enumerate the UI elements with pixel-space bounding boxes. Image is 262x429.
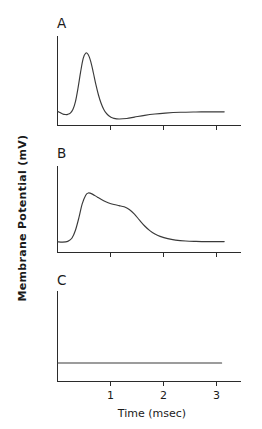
panel-c: C 1 2 3 xyxy=(57,272,241,402)
x-tick-labels: 1 2 3 xyxy=(107,389,220,402)
panel-b: B xyxy=(57,145,241,257)
membrane-potential-figure: A B C xyxy=(0,0,262,429)
panel-a-label: A xyxy=(57,15,67,31)
panel-c-ticks xyxy=(111,382,217,387)
x-axis-title: Time (msec) xyxy=(117,407,186,420)
y-axis-title: Membrane Potential (mV) xyxy=(16,135,29,302)
x-tick-label-1: 1 xyxy=(107,389,114,402)
panel-b-trace xyxy=(58,193,225,242)
panel-a: A xyxy=(57,15,241,130)
figure-container: A B C xyxy=(0,0,262,429)
panel-b-ticks xyxy=(111,253,217,258)
panel-a-ticks xyxy=(111,126,217,131)
panel-c-label: C xyxy=(57,272,67,288)
x-tick-label-2: 2 xyxy=(160,389,167,402)
x-tick-label-3: 3 xyxy=(213,389,220,402)
panel-b-label: B xyxy=(57,145,66,161)
panel-a-trace xyxy=(58,53,225,119)
